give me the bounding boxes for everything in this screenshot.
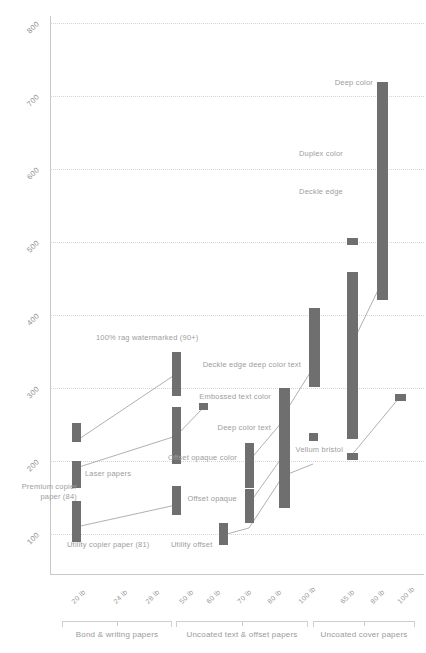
label-embossed-text-color: Embossed text color bbox=[137, 392, 271, 402]
x-tick-60lb: 60 lb bbox=[205, 588, 222, 605]
bar-laser-papers-28lb bbox=[199, 403, 208, 410]
group-label-cover: Uncoated cover papers bbox=[304, 630, 424, 639]
label-utility-offset: Utility offset bbox=[171, 540, 212, 550]
label-utility-copier: Utility copier paper (81) bbox=[67, 540, 150, 550]
y-tick-700: 700 bbox=[14, 92, 42, 120]
gridline-500 bbox=[51, 242, 424, 243]
label-offset-opaque: Offset opaque bbox=[133, 494, 237, 504]
gridline-400 bbox=[51, 315, 424, 316]
group-tick-text bbox=[242, 621, 243, 626]
bar-deep-color-80lb bbox=[377, 82, 388, 300]
x-tick-100lb-cover: 100 lb bbox=[396, 585, 416, 605]
label-deckle-edge-deep-color-text: Deckle edge deep color text bbox=[127, 360, 301, 370]
group-tick-cover bbox=[364, 621, 365, 626]
label-vellum-bristol: Vellum bristol bbox=[263, 445, 343, 455]
x-tick-20lb: 20 lb bbox=[70, 588, 87, 605]
x-tick-65lb: 65 lb bbox=[339, 588, 356, 605]
label-duplex-color: Duplex color bbox=[273, 149, 343, 159]
y-tick-100: 100 bbox=[14, 530, 42, 558]
x-tick-100lb-text: 100 lb bbox=[297, 585, 317, 605]
bar-vellum-bristol-100lb bbox=[395, 394, 406, 401]
label-deep-color: Deep color bbox=[303, 78, 373, 88]
y-tick-600: 600 bbox=[14, 165, 42, 193]
gridline-600 bbox=[51, 169, 424, 170]
y-tick-200: 200 bbox=[14, 457, 42, 485]
label-rag-watermarked: 100% rag watermarked (90+) bbox=[96, 333, 199, 343]
bar-utility-offset-50lb bbox=[219, 523, 228, 545]
gridline-200 bbox=[51, 461, 424, 462]
group-tick-bond bbox=[117, 621, 118, 626]
label-deep-color-text: Deep color text bbox=[151, 423, 271, 433]
x-tick-80lb: 80 lb bbox=[266, 588, 283, 605]
bar-offset-opaque-60lb bbox=[245, 489, 254, 520]
x-tick-50lb: 50 lb bbox=[178, 588, 195, 605]
gridline-300 bbox=[51, 388, 424, 389]
label-laser-papers: Laser papers bbox=[85, 469, 131, 479]
bar-deckle-edge-65lb bbox=[347, 272, 358, 439]
bar-rag-watermarked-24lb bbox=[172, 352, 181, 396]
gridline-700 bbox=[51, 96, 424, 97]
group-label-text: Uncoated text & offset papers bbox=[177, 630, 307, 639]
gridline-800 bbox=[51, 23, 424, 24]
y-tick-500: 500 bbox=[14, 238, 42, 266]
series-connectors bbox=[51, 16, 425, 575]
x-tick-70lb: 70 lb bbox=[236, 588, 253, 605]
label-deckle-edge: Deckle edge bbox=[273, 187, 343, 197]
bar-deckle-edge-deep-color-text-80lb bbox=[309, 308, 320, 387]
label-premium-copier: Premium copier paper (84) bbox=[9, 482, 77, 502]
y-tick-800: 800 bbox=[14, 19, 42, 47]
x-tick-24lb: 24 lb bbox=[112, 588, 129, 605]
bar-vellum-bristol-65lb bbox=[347, 453, 358, 460]
bar-utility-copier-20lb bbox=[72, 501, 81, 542]
plot-area: 100% rag watermarked (90+) Laser papers … bbox=[50, 16, 424, 575]
y-tick-400: 400 bbox=[14, 311, 42, 339]
y-tick-300: 300 bbox=[14, 384, 42, 412]
bar-utility-offset-80lb bbox=[309, 433, 318, 441]
gridline-100 bbox=[51, 534, 424, 535]
paper-caliper-chart: 800 700 600 500 400 300 200 100 bbox=[0, 0, 426, 653]
bar-duplex-color-65lb bbox=[347, 238, 358, 245]
bar-rag-watermarked-20lb bbox=[72, 423, 81, 442]
label-offset-opaque-color: Offset opaque color bbox=[117, 453, 237, 463]
bar-offset-opaque-color-60lb bbox=[245, 443, 254, 488]
x-tick-28lb: 28 lb bbox=[144, 588, 161, 605]
group-label-bond: Bond & writing papers bbox=[52, 630, 182, 639]
x-tick-80lb-cover: 80 lb bbox=[369, 588, 386, 605]
